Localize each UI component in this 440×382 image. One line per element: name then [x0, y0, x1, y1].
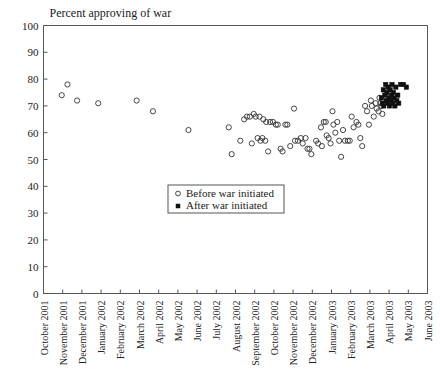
data-point-after-war [397, 101, 401, 105]
y-tick-label: 90 [28, 46, 40, 58]
chart-legend: Before war initiatedAfter war initiated [168, 185, 284, 213]
data-point-before-war [300, 141, 305, 146]
plot-frame [44, 26, 428, 294]
x-tick-label: February 2003 [346, 301, 357, 360]
data-point-before-war [328, 141, 333, 146]
data-point-before-war [226, 125, 231, 130]
series-before-war-points [59, 82, 385, 160]
data-point-before-war [319, 144, 324, 149]
data-point-before-war [65, 82, 70, 87]
x-tick-label: October 2002 [269, 301, 280, 356]
data-point-before-war [333, 130, 338, 135]
data-point-before-war [340, 127, 345, 132]
data-point-before-war [335, 119, 340, 124]
data-point-after-war [396, 93, 400, 97]
data-point-before-war [366, 122, 371, 127]
data-point-before-war [249, 141, 254, 146]
data-point-before-war [288, 144, 293, 149]
data-point-before-war [364, 109, 369, 114]
y-tick-label: 100 [22, 20, 39, 32]
x-tick-label: May 2003 [403, 301, 414, 342]
data-point-before-war [337, 138, 342, 143]
data-point-before-war [59, 93, 64, 98]
data-point-before-war [363, 103, 368, 108]
x-tick-label: March 2003 [365, 301, 376, 350]
x-tick-label: December 2001 [77, 301, 88, 365]
data-point-before-war [229, 152, 234, 157]
y-tick-label: 60 [28, 127, 40, 139]
data-point-before-war [368, 98, 373, 103]
data-point-before-war [339, 154, 344, 159]
x-tick-label: April 2003 [384, 301, 395, 345]
data-point-before-war [351, 125, 356, 130]
legend-label-before-war: Before war initiated [186, 187, 274, 199]
data-point-before-war [318, 125, 323, 130]
data-point-before-war [150, 109, 155, 114]
data-point-after-war [404, 85, 408, 89]
data-point-before-war [360, 144, 365, 149]
x-tick-label: September 2002 [250, 301, 261, 366]
data-point-before-war [134, 98, 139, 103]
chart-figure: Percent approving of war 010203040506070… [0, 0, 440, 382]
x-axis: October 2001November 2001December 2001Ja… [39, 290, 434, 366]
data-point-before-war [358, 135, 363, 140]
y-tick-label: 0 [33, 288, 39, 300]
x-tick-label: January 2003 [327, 301, 338, 355]
data-point-before-war [96, 101, 101, 106]
x-tick-label: November 2002 [288, 301, 299, 366]
x-tick-label: March 2002 [135, 301, 146, 350]
legend-marker-after-war [176, 204, 180, 208]
x-tick-label: November 2001 [58, 301, 69, 366]
x-tick-label: October 2001 [39, 301, 50, 356]
y-tick-label: 40 [28, 180, 40, 192]
data-point-before-war [75, 98, 80, 103]
data-point-before-war [266, 149, 271, 154]
data-point-before-war [309, 152, 314, 157]
x-tick-label: May 2002 [173, 301, 184, 342]
chart-title: Percent approving of war [50, 6, 172, 20]
y-tick-label: 20 [28, 234, 40, 246]
data-point-after-war [391, 90, 395, 94]
y-tick-label: 70 [28, 100, 40, 112]
legend-label-after-war: After war initiated [186, 199, 268, 211]
data-point-before-war [291, 106, 296, 111]
data-point-before-war [380, 111, 385, 116]
y-tick-label: 50 [28, 154, 40, 166]
data-point-before-war [238, 138, 243, 143]
scatter-plot: Percent approving of war 010203040506070… [0, 0, 440, 382]
chart-title-group: Percent approving of war [50, 6, 172, 20]
x-tick-label: June 2002 [192, 301, 203, 342]
data-point-before-war [349, 114, 354, 119]
x-tick-label: January 2002 [96, 301, 107, 355]
x-tick-label: December 2002 [307, 301, 318, 365]
data-point-before-war [371, 114, 376, 119]
data-point-before-war [330, 109, 335, 114]
x-tick-label: August 2002 [231, 301, 242, 352]
axis-frame [44, 26, 428, 294]
data-point-before-war [186, 127, 191, 132]
x-tick-label: April 2002 [154, 301, 165, 345]
y-tick-label: 10 [28, 261, 40, 273]
x-tick-label: July 2002 [211, 301, 222, 340]
x-tick-label: June 2003 [423, 301, 434, 342]
x-tick-label: February 2002 [115, 301, 126, 360]
data-point-after-war [394, 85, 398, 89]
y-tick-label: 80 [28, 73, 40, 85]
y-tick-label: 30 [28, 207, 40, 219]
series-after-war-points [379, 82, 408, 108]
